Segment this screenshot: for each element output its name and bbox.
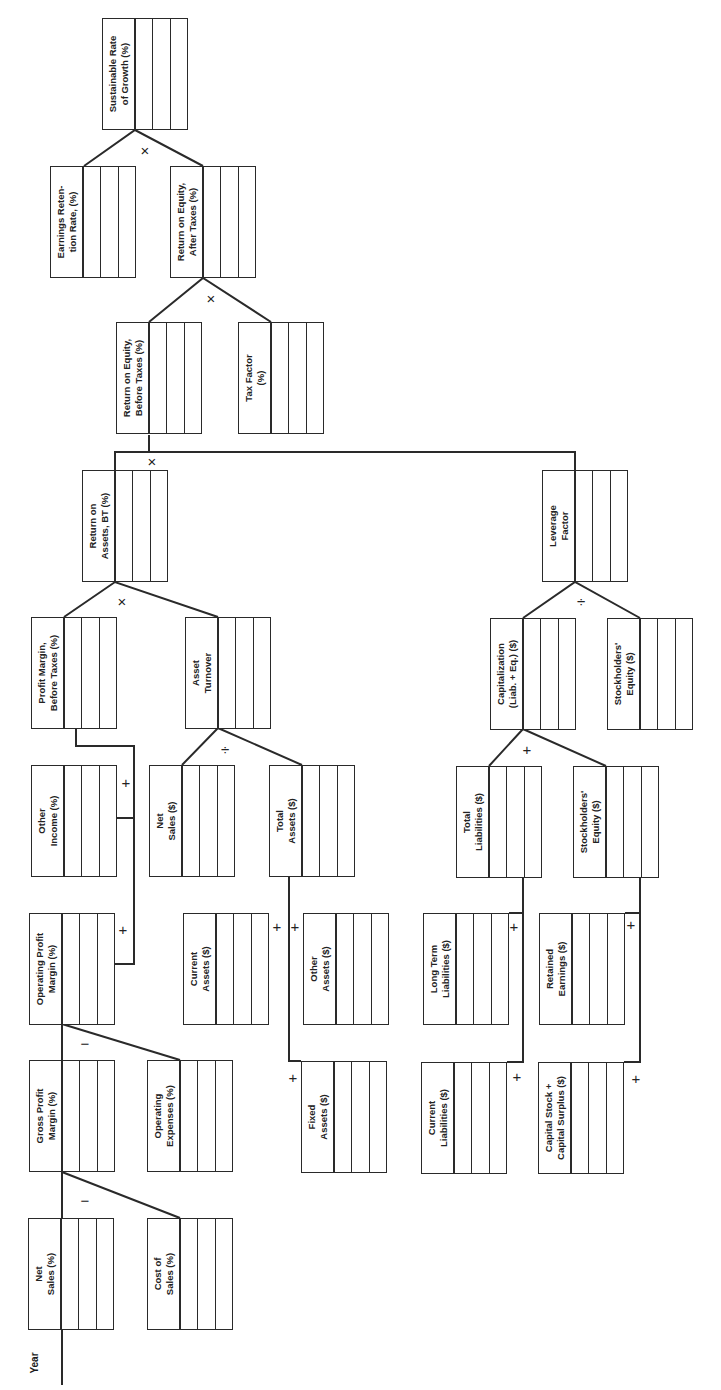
year-value-cell[interactable] [492,914,508,1024]
year-value-cell[interactable] [181,1219,198,1329]
year-value-cell[interactable] [100,766,116,876]
year-value-cell[interactable] [98,914,114,1024]
year-value-cell[interactable] [101,167,118,277]
year-value-cell[interactable] [254,618,270,728]
year-value-cell[interactable] [352,1062,369,1172]
year-value-cell[interactable] [221,167,238,277]
year-value-cell[interactable] [150,323,167,433]
year-value-cell[interactable] [272,323,289,433]
ratio-box-label-cell: Return on Equity, After Taxes (%) [171,167,204,277]
year-value-cell[interactable] [218,766,234,876]
year-value-cell[interactable] [84,167,101,277]
year-value-cell[interactable] [234,914,251,1024]
year-value-cell[interactable] [607,1063,623,1173]
ratio-box-leverage-factor: Leverage Factor [542,470,628,582]
ratio-box-roe-after-taxes: Return on Equity, After Taxes (%) [170,166,256,278]
year-value-cell[interactable] [472,1063,489,1173]
ratio-box-label: Current Assets ($) [188,915,212,1023]
year-value-cell[interactable] [65,766,82,876]
year-value-cell[interactable] [289,323,306,433]
year-value-cell[interactable] [239,167,255,277]
ratio-box-label-cell: Capitalization (Liab. + Eq.) ($) [491,619,524,729]
ratio-box-label: Other Assets ($) [308,915,332,1023]
ratio-box-label: Stockholders' Equity ($) [578,768,602,876]
year-value-cell[interactable] [573,914,590,1024]
year-value-cell[interactable] [590,914,607,1024]
year-value-cell[interactable] [217,914,234,1024]
year-value-cell[interactable] [198,1061,215,1171]
year-value-cell[interactable] [490,767,507,877]
year-value-cell[interactable] [82,618,99,728]
year-value-cell[interactable] [572,1063,589,1173]
year-value-cell[interactable] [337,914,354,1024]
year-value-cell[interactable] [62,1219,79,1329]
year-value-cell[interactable] [119,167,135,277]
year-value-cell[interactable] [219,618,236,728]
year-value-cell[interactable] [641,619,658,729]
year-value-cell[interactable] [82,766,99,876]
year-value-cell[interactable] [171,19,187,129]
year-value-cell[interactable] [576,471,593,581]
year-value-cell[interactable] [198,1219,215,1329]
year-value-cell[interactable] [320,766,337,876]
year-value-cell[interactable] [658,619,675,729]
year-value-cell[interactable] [354,914,371,1024]
year-value-cell[interactable] [181,1061,198,1171]
year-value-cell[interactable] [455,1063,472,1173]
year-value-cell[interactable] [507,767,524,877]
year-value-cell[interactable] [525,767,541,877]
year-value-cell[interactable] [490,1063,506,1173]
year-value-cell[interactable] [63,914,80,1024]
ratio-box-label-cell: Fixed Assets ($) [302,1062,335,1172]
year-value-cell[interactable] [98,1061,114,1171]
year-value-cell[interactable] [63,1061,80,1171]
year-value-cell[interactable] [236,618,253,728]
year-value-cell[interactable] [608,914,624,1024]
year-value-cell[interactable] [153,19,170,129]
year-value-cell[interactable] [151,471,167,581]
year-value-cell[interactable] [593,471,610,581]
plus-operator-icon: + [273,919,282,934]
year-value-cell[interactable] [335,1062,352,1172]
year-value-cell[interactable] [642,767,658,877]
year-value-cell[interactable] [252,914,268,1024]
year-value-cell[interactable] [133,471,150,581]
year-value-cell[interactable] [303,766,320,876]
year-value-cell[interactable] [676,619,692,729]
multiply-operator-icon: × [141,143,150,158]
ratio-box-label-cell: Earnings Reten- tion Rate, (%) [51,167,84,277]
year-value-cell[interactable] [372,914,388,1024]
ratio-box-return-on-assets-bt: Return on Assets, BT (%) [82,470,168,582]
year-value-cell[interactable] [100,618,116,728]
year-value-cell[interactable] [370,1062,386,1172]
year-value-cell[interactable] [80,1061,97,1171]
ratio-box-label-cell: Operating Profit Margin (%) [30,914,63,1024]
year-value-cell[interactable] [307,323,323,433]
year-value-cell[interactable] [116,471,133,581]
year-value-cell[interactable] [167,323,184,433]
year-value-cell[interactable] [474,914,491,1024]
year-value-cell[interactable] [79,1219,96,1329]
year-value-cell[interactable] [185,323,201,433]
year-value-cell[interactable] [611,471,627,581]
ratio-box-operating-profit-margin: Operating Profit Margin (%) [29,913,115,1025]
year-value-cell[interactable] [65,618,82,728]
year-value-cell[interactable] [216,1061,232,1171]
year-value-cell[interactable] [541,619,558,729]
year-value-cell[interactable] [338,766,354,876]
ratio-box-total-liabilities: Total Liabilities ($) [456,766,542,878]
year-value-cell[interactable] [589,1063,606,1173]
ratio-box-label-cell: Current Assets ($) [184,914,217,1024]
year-value-cell[interactable] [559,619,575,729]
year-value-cell[interactable] [80,914,97,1024]
year-value-cell[interactable] [624,767,641,877]
year-value-cell[interactable] [607,767,624,877]
year-value-cell[interactable] [204,167,221,277]
year-value-cell[interactable] [200,766,217,876]
year-value-cell[interactable] [524,619,541,729]
year-value-cell[interactable] [183,766,200,876]
year-value-cell[interactable] [457,914,474,1024]
year-value-cell[interactable] [216,1219,232,1329]
year-value-cell[interactable] [136,19,153,129]
year-value-cell[interactable] [97,1219,113,1329]
